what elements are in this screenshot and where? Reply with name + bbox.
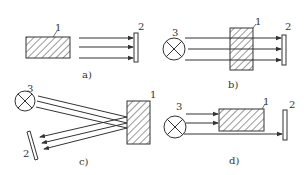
label-source: 3 [176, 101, 182, 112]
receiver-detector [134, 33, 138, 62]
label-object: 1 [55, 22, 61, 33]
label-receiver: 2 [289, 99, 295, 110]
panel-a: 1 2 a) [26, 21, 144, 80]
panel-d: 3 1 2 d) [164, 96, 295, 166]
label-receiver: 2 [23, 148, 29, 159]
radiation-rays [79, 38, 133, 58]
label-receiver: 2 [285, 21, 291, 32]
caption-c: c) [79, 156, 89, 167]
label-object: 1 [263, 96, 269, 107]
lamp-icon [164, 116, 186, 138]
object-body [219, 109, 264, 131]
receiver-detector [282, 35, 286, 65]
panel-c: 3 1 2 c) [15, 83, 156, 167]
reflected-rays [40, 117, 127, 149]
optical-sensor-diagram: 1 2 a) 3 1 2 b) [0, 0, 304, 175]
caption-a: a) [82, 69, 92, 80]
receiver-detector [283, 110, 287, 140]
label-object: 1 [255, 16, 261, 27]
incident-rays [36, 96, 127, 128]
label-receiver: 2 [138, 21, 144, 32]
object-body [127, 101, 150, 144]
lamp-icon [163, 38, 185, 60]
caption-d: d) [229, 155, 239, 166]
label-source: 3 [172, 27, 178, 38]
lamp-icon [15, 91, 35, 111]
blocked-rays [186, 114, 218, 123]
panel-b: 3 1 2 b) [163, 16, 291, 90]
caption-b: b) [228, 79, 238, 90]
object-body [26, 37, 70, 58]
label-object: 1 [150, 89, 156, 100]
label-source: 3 [27, 83, 33, 94]
